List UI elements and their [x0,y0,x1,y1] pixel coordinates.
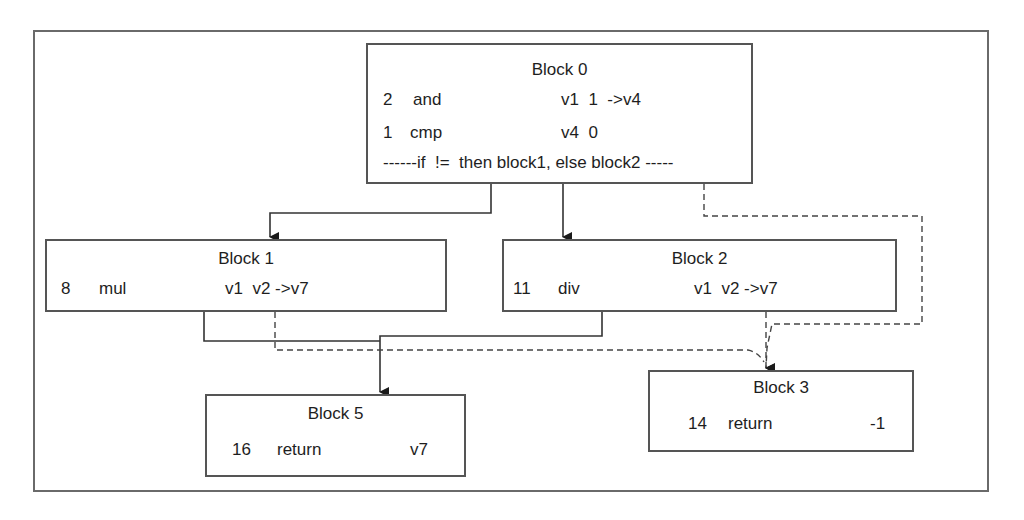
edge-b1-b3 [275,312,764,362]
instr-op: return [728,414,772,434]
instr-idx: 14 [688,414,707,434]
instr-args: -1 [870,414,885,434]
block-title: Block 5 [207,404,464,424]
branch-condition: ------if != then block1, else block2 ---… [383,153,674,173]
block-title: Block 2 [504,249,895,269]
block-title: Block 3 [650,378,912,398]
block-1: Block 1 8 mul v1 v2 ->v7 [45,239,447,312]
instr-args: v4 0 [561,123,598,143]
edge-b0-b1 [270,184,491,237]
instr-op: div [558,279,580,299]
instr-idx: 2 [383,90,392,110]
block-0: Block 0 2 and v1 1 ->v4 1 cmp v4 0 -----… [366,43,753,184]
instr-idx: 1 [383,123,392,143]
instr-op: mul [99,279,126,299]
instr-args: v7 [410,440,428,460]
block-5: Block 5 16 return v7 [205,394,466,477]
block-title: Block 1 [47,249,445,269]
instr-op: cmp [410,123,442,143]
instr-idx: 11 [513,279,531,299]
instr-args: v1 1 ->v4 [561,90,641,110]
block-title: Block 0 [368,60,751,80]
instr-idx: 16 [232,440,251,460]
instr-args: v1 v2 ->v7 [225,279,309,299]
block-2: Block 2 11 div v1 v2 ->v7 [502,239,897,312]
instr-idx: 8 [61,279,70,299]
instr-op: return [277,440,321,460]
edge-b1-b5 [204,312,380,341]
instr-op: and [413,90,441,110]
instr-args: v1 v2 ->v7 [694,279,778,299]
block-3: Block 3 14 return -1 [648,370,914,452]
edge-b2-b5 [380,312,602,392]
